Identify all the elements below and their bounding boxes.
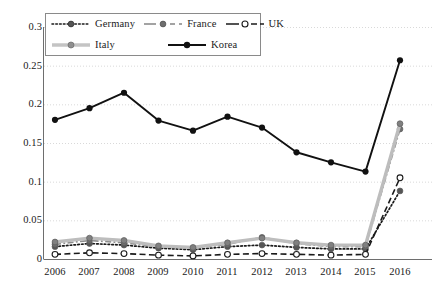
legend-item-france[interactable]: France bbox=[143, 14, 216, 33]
data-point bbox=[121, 238, 127, 244]
data-point bbox=[259, 251, 265, 257]
series-korea bbox=[52, 57, 403, 175]
data-point bbox=[87, 250, 93, 256]
data-point bbox=[397, 175, 403, 181]
data-point bbox=[259, 124, 265, 130]
legend-key-uk bbox=[225, 17, 265, 31]
data-point bbox=[224, 114, 230, 120]
series-line bbox=[55, 124, 400, 248]
legend-item-italy[interactable]: Italy bbox=[51, 35, 115, 54]
data-point bbox=[397, 57, 403, 63]
chart-legend: Germany France UK bbox=[45, 13, 261, 56]
data-point bbox=[259, 242, 265, 248]
data-point bbox=[328, 252, 334, 258]
data-point bbox=[155, 117, 161, 123]
data-point bbox=[156, 243, 162, 249]
data-point bbox=[52, 251, 58, 257]
series-france bbox=[52, 126, 403, 251]
data-point bbox=[294, 240, 300, 246]
legend-item-uk[interactable]: UK bbox=[225, 14, 284, 33]
legend-label-korea: Korea bbox=[211, 39, 237, 50]
data-point bbox=[86, 105, 92, 111]
data-point bbox=[87, 235, 93, 241]
data-point bbox=[121, 251, 127, 257]
data-point bbox=[328, 159, 334, 165]
data-point bbox=[190, 245, 196, 251]
data-point bbox=[156, 252, 162, 258]
line-chart: 0.3 0.25 0.2 0.15 0.1 0.05 0 2006 2007 2… bbox=[0, 0, 442, 292]
legend-key-korea bbox=[167, 38, 207, 52]
data-point bbox=[52, 117, 58, 123]
data-point bbox=[190, 253, 196, 259]
series-line bbox=[55, 129, 400, 248]
data-point bbox=[190, 128, 196, 134]
legend-label-germany: Germany bbox=[95, 18, 135, 29]
data-point bbox=[328, 242, 334, 248]
data-point bbox=[225, 251, 231, 257]
legend-key-france bbox=[143, 17, 183, 31]
data-point bbox=[225, 240, 231, 246]
data-point bbox=[397, 121, 403, 127]
legend-label-france: France bbox=[187, 18, 216, 29]
series-layer bbox=[52, 57, 403, 259]
data-point bbox=[52, 239, 58, 245]
legend-item-korea[interactable]: Korea bbox=[167, 35, 237, 54]
legend-label-italy: Italy bbox=[95, 39, 115, 50]
data-point bbox=[363, 242, 369, 248]
legend-key-germany bbox=[51, 17, 91, 31]
data-point bbox=[294, 251, 300, 257]
data-point bbox=[121, 90, 127, 96]
data-point bbox=[363, 251, 369, 257]
data-point bbox=[293, 149, 299, 155]
data-point bbox=[397, 188, 403, 194]
data-point bbox=[259, 235, 265, 241]
legend-key-italy bbox=[51, 38, 91, 52]
legend-label-uk: UK bbox=[269, 18, 284, 29]
series-italy bbox=[52, 121, 403, 251]
data-point bbox=[362, 169, 368, 175]
legend-item-germany[interactable]: Germany bbox=[51, 14, 135, 33]
